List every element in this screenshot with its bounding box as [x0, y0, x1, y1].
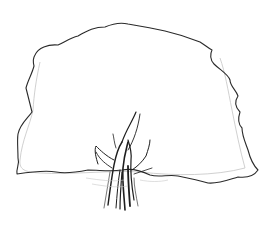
- ground-shading: [86, 178, 168, 187]
- canopy-shadow-outline: [20, 58, 245, 175]
- tree-sketch: [0, 0, 275, 230]
- tree-drawing: [0, 0, 275, 230]
- trunk: [95, 112, 152, 210]
- canopy-outline: [17, 23, 258, 183]
